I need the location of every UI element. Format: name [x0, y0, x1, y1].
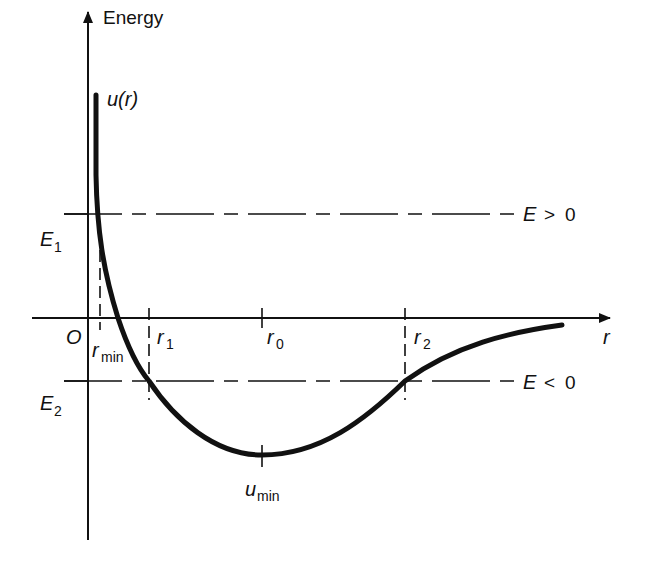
svg-text:2: 2: [54, 403, 62, 419]
e-positive-label: E > 0: [523, 203, 576, 225]
svg-text:1: 1: [166, 336, 174, 352]
svg-text:>: >: [544, 204, 555, 225]
svg-text:E: E: [40, 392, 54, 414]
svg-text:E: E: [523, 371, 537, 393]
svg-text:<: <: [544, 372, 555, 393]
svg-text:min: min: [257, 488, 280, 504]
svg-text:r: r: [414, 326, 422, 348]
svg-text:min: min: [101, 349, 124, 365]
svg-text:E: E: [40, 228, 54, 250]
e-negative-label: E < 0: [523, 371, 576, 393]
svg-text:u(r): u(r): [107, 88, 138, 110]
potential-energy-diagram: Energy r O E > 0 E 1 E < 0 E 2 r min r 1…: [0, 0, 647, 564]
r-min-label: r min: [92, 339, 124, 365]
svg-text:E: E: [523, 203, 537, 225]
svg-text:r: r: [92, 339, 100, 361]
curve-label: u(r): [107, 88, 138, 110]
svg-text:r: r: [267, 326, 275, 348]
potential-curve: [96, 95, 562, 455]
svg-text:2: 2: [423, 336, 431, 352]
e1-label: E 1: [40, 228, 62, 255]
u-min-label: u min: [245, 478, 280, 504]
svg-text:0: 0: [276, 336, 284, 352]
svg-text:r: r: [157, 326, 165, 348]
r2-label: r 2: [414, 326, 431, 352]
energy-axis-label: Energy: [103, 7, 164, 28]
e2-label: E 2: [40, 392, 62, 419]
svg-text:u: u: [245, 478, 256, 500]
r-axis-label: r: [603, 326, 611, 348]
svg-text:1: 1: [54, 239, 62, 255]
svg-text:0: 0: [565, 372, 576, 393]
r0-label: r 0: [267, 326, 284, 352]
origin-label: O: [66, 326, 82, 348]
r1-label: r 1: [157, 326, 174, 352]
svg-text:0: 0: [565, 204, 576, 225]
